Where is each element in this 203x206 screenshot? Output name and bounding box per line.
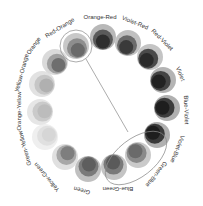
segment-label: Orange-Red: [83, 14, 116, 20]
color-wheel-segments: Red-OrangeOrange-RedViolet-RedRed-Violet…: [14, 14, 190, 196]
swatch-inner-circle: [156, 101, 170, 115]
segment-label: Violet: [175, 66, 186, 82]
swatch-inner-circle: [71, 43, 85, 57]
segment-label: Orange-Yellow: [16, 91, 22, 131]
segment-label: Green: [73, 185, 91, 195]
segment-label: Green-Blue: [144, 160, 168, 188]
segment-label: Violet-Blue: [169, 135, 186, 165]
segment-label: Blue-Green: [103, 186, 134, 192]
swatch-inner-circle: [38, 104, 52, 118]
connector-line: [86, 59, 128, 132]
swatch-inner-circle: [42, 128, 56, 142]
swatch-inner-circle: [152, 75, 166, 89]
swatch-inner-circle: [146, 126, 160, 140]
segment-label: Yellow-Orange: [14, 53, 30, 93]
segment-orange: Orange: [25, 35, 68, 75]
segment-violet: Violet: [150, 66, 186, 93]
segment-green-blue: Green-Blue: [125, 142, 168, 189]
segment-label: Green-Yellow: [17, 129, 32, 166]
swatch-inner-circle: [119, 40, 133, 54]
segment-label: Blue-Violet: [183, 95, 190, 124]
segment-label: Violet-Red: [121, 15, 149, 31]
swatch-inner-circle: [61, 146, 75, 160]
swatch-inner-circle: [39, 78, 53, 92]
swatch-inner-circle: [140, 53, 154, 67]
swatch-inner-circle: [51, 58, 65, 72]
segment-blue-violet: Blue-Violet: [154, 95, 190, 125]
segment-red-violet: Red-Violet: [137, 28, 175, 70]
segment-green: Green: [73, 156, 101, 195]
segment-green-yellow: Green-Yellow: [17, 124, 58, 166]
swatch-inner-circle: [82, 158, 96, 172]
segment-label: Orange: [25, 35, 42, 55]
swatch-inner-circle: [128, 144, 142, 158]
segment-yellow-green: Yellow-Green: [33, 144, 78, 193]
swatch-inner-circle: [96, 35, 110, 49]
color-wheel-diagram: Red-OrangeOrange-RedViolet-RedRed-Violet…: [0, 0, 203, 206]
